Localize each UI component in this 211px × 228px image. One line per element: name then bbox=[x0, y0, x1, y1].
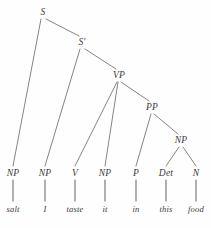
node-label-np1: NP bbox=[7, 168, 20, 178]
node-label-n: N bbox=[193, 168, 200, 178]
branch-vp-to-pp bbox=[121, 82, 149, 101]
node-label-v: V bbox=[72, 168, 78, 178]
branch-np-to-n bbox=[183, 147, 196, 166]
node-label-sbar: S' bbox=[78, 37, 85, 47]
branch-vp-to-v bbox=[75, 82, 117, 166]
word-label-salt: salt bbox=[6, 204, 19, 214]
branch-s-to-sbar bbox=[46, 19, 79, 36]
word-label-it: it bbox=[102, 204, 107, 214]
branch-pp-to-p bbox=[136, 114, 151, 166]
tree-lines bbox=[0, 0, 211, 228]
word-label-in: in bbox=[132, 204, 139, 214]
branch-group bbox=[13, 19, 196, 166]
branch-s-to-np-salt bbox=[13, 19, 41, 166]
branch-sbar-to-np-i bbox=[45, 49, 80, 166]
branch-pp-to-np bbox=[154, 114, 178, 134]
stem-group bbox=[13, 180, 196, 201]
word-label-i: I bbox=[43, 204, 46, 214]
branch-sbar-to-vp bbox=[85, 49, 116, 69]
node-label-np2: NP bbox=[39, 168, 52, 178]
node-label-pp: PP bbox=[146, 102, 158, 112]
node-label-np3: NP bbox=[99, 168, 112, 178]
syntax-tree-diagram: SS'VPPPNPNPNPVNPPDetN saltItasteitinthis… bbox=[0, 0, 211, 228]
branch-np-to-det bbox=[166, 147, 179, 166]
word-label-this: this bbox=[159, 204, 172, 214]
node-label-p: P bbox=[133, 168, 139, 178]
node-label-s: S bbox=[41, 7, 46, 17]
word-label-taste: taste bbox=[66, 204, 83, 214]
word-label-food: food bbox=[188, 204, 204, 214]
node-label-npobj: NP bbox=[175, 135, 188, 145]
branch-vp-to-np-it bbox=[105, 82, 118, 166]
node-label-vp: VP bbox=[113, 70, 125, 80]
node-label-det: Det bbox=[159, 168, 173, 178]
